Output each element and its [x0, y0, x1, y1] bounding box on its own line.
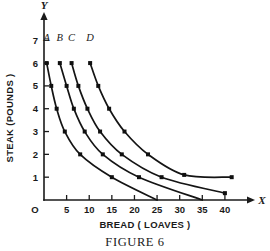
- data-point-c: [85, 107, 89, 111]
- data-point-d: [230, 175, 234, 179]
- data-point-a: [49, 84, 53, 88]
- curve-label-b: B: [57, 32, 64, 43]
- data-point-b: [65, 84, 69, 88]
- x-axis-title: BREAD ( LOAVES ): [99, 219, 190, 230]
- x-axis-letter: X: [257, 194, 266, 206]
- data-point-a: [78, 152, 82, 156]
- y-tick-label: 7: [33, 35, 38, 46]
- data-point-c: [160, 175, 164, 179]
- data-markers-group: [45, 61, 234, 195]
- y-axis-arrowhead: [40, 12, 47, 20]
- data-point-a: [63, 130, 67, 134]
- x-tick-label: 25: [152, 204, 163, 215]
- data-point-c: [76, 84, 80, 88]
- data-point-d: [96, 84, 100, 88]
- y-tick-label: 6: [33, 58, 38, 69]
- y-tick-label: 1: [33, 172, 39, 183]
- curve-label-d: D: [85, 32, 94, 43]
- data-point-c: [98, 130, 102, 134]
- data-point-d: [182, 173, 186, 177]
- data-point-b: [101, 152, 105, 156]
- curve-labels-group: ABCD: [43, 32, 95, 43]
- data-point-a: [110, 175, 114, 179]
- x-tick-label: 5: [64, 204, 70, 215]
- data-point-b: [137, 175, 141, 179]
- data-point-d: [123, 130, 127, 134]
- x-tick-label: 10: [84, 204, 95, 215]
- curve-b: [60, 63, 202, 200]
- x-tick-label: 35: [197, 204, 208, 215]
- curve-c: [72, 63, 225, 193]
- x-axis-arrowhead: [247, 196, 255, 203]
- indifference-curve-chart: 510152025303540 1234567 ABCD O Y X BREAD…: [0, 0, 270, 251]
- origin-label: O: [31, 204, 38, 215]
- data-point-a: [45, 61, 49, 65]
- data-point-c: [120, 152, 124, 156]
- y-axis-letter: Y: [41, 0, 49, 11]
- data-point-d: [146, 152, 150, 156]
- curve-label-a: A: [43, 32, 51, 43]
- data-point-a: [55, 107, 59, 111]
- data-point-b: [58, 61, 62, 65]
- y-tick-label: 5: [33, 80, 39, 91]
- figure-caption: FIGURE 6: [105, 235, 164, 249]
- data-point-c: [223, 191, 227, 195]
- data-point-d: [88, 61, 92, 65]
- x-tick-label: 40: [220, 204, 231, 215]
- y-axis-title: STEAK (POUNDS ): [4, 74, 15, 163]
- x-axis-ticks: 510152025303540: [64, 195, 230, 215]
- x-tick-label: 15: [107, 204, 118, 215]
- y-tick-label: 3: [33, 126, 38, 137]
- x-tick-label: 30: [174, 204, 185, 215]
- data-point-b: [72, 107, 76, 111]
- curves-group: [47, 63, 232, 200]
- data-point-d: [107, 107, 111, 111]
- data-point-b: [83, 130, 87, 134]
- data-point-c: [70, 61, 74, 65]
- y-tick-label: 4: [33, 103, 39, 114]
- x-tick-label: 20: [129, 204, 140, 215]
- y-tick-label: 2: [33, 149, 38, 160]
- curve-label-c: C: [68, 32, 76, 43]
- y-axis-ticks: 1234567: [33, 35, 49, 183]
- figure-container: 510152025303540 1234567 ABCD O Y X BREAD…: [0, 0, 270, 251]
